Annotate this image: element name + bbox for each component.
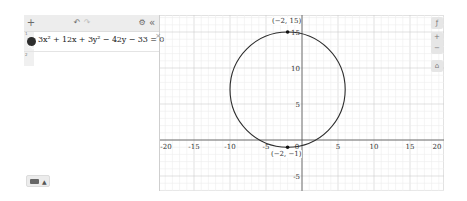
svg-text:10: 10 bbox=[291, 65, 300, 73]
point-label-bottom: (−2, −1) bbox=[271, 150, 302, 158]
svg-text:15: 15 bbox=[291, 29, 300, 37]
default-view-button[interactable]: ⌂ bbox=[431, 60, 443, 72]
svg-text:15: 15 bbox=[406, 143, 415, 151]
svg-text:-15: -15 bbox=[188, 143, 199, 151]
add-expression-button[interactable]: + bbox=[26, 15, 36, 31]
collapse-panel-button[interactable]: « bbox=[147, 15, 157, 31]
zoom-controls: + − bbox=[431, 32, 443, 54]
svg-text:-10: -10 bbox=[224, 143, 235, 151]
expression-toolbar: + ↶ ↷ ⚙ « bbox=[24, 15, 159, 32]
keyboard-icon bbox=[30, 179, 39, 184]
graph-canvas[interactable]: -20-15-10-50510152015105-5 (−2, 15) (−2,… bbox=[160, 15, 444, 191]
svg-text:10: 10 bbox=[370, 143, 379, 151]
undo-button[interactable]: ↶ bbox=[72, 15, 82, 31]
home-icon: ⌂ bbox=[435, 62, 439, 70]
zoom-out-button[interactable]: − bbox=[431, 43, 443, 54]
svg-text:-5: -5 bbox=[293, 173, 300, 181]
wave-color-icon[interactable] bbox=[27, 37, 36, 46]
wrench-icon: ƒ bbox=[436, 19, 438, 27]
graph-settings-button[interactable]: ƒ bbox=[431, 17, 443, 29]
svg-text:-5: -5 bbox=[263, 143, 270, 151]
svg-text:-20: -20 bbox=[160, 143, 171, 151]
expression-index: 2 bbox=[25, 52, 28, 57]
keyboard-toggle-button[interactable]: ▲ bbox=[26, 175, 50, 187]
expression-index: 1 bbox=[25, 31, 28, 36]
svg-text:5: 5 bbox=[336, 143, 340, 151]
settings-button[interactable]: ⚙ bbox=[137, 15, 147, 31]
redo-button[interactable]: ↷ bbox=[82, 15, 92, 31]
svg-text:5: 5 bbox=[296, 101, 300, 109]
point-label-top: (−2, 15) bbox=[272, 17, 301, 25]
point-bottom bbox=[286, 145, 290, 149]
svg-text:20: 20 bbox=[433, 143, 442, 151]
expression-math[interactable]: 3x² + 12x + 3y² − 42y − 33 = 0 bbox=[38, 35, 164, 44]
new-expression-row[interactable]: 2 bbox=[24, 52, 34, 66]
point-top bbox=[286, 30, 290, 34]
expression-row[interactable]: 1 3x² + 12x + 3y² − 42y − 33 = 0 × bbox=[24, 32, 159, 52]
expression-panel: + ↶ ↷ ⚙ « 1 3x² + 12x + 3y² − 42y − 33 =… bbox=[24, 15, 160, 191]
zoom-in-button[interactable]: + bbox=[431, 32, 443, 43]
caret-up-icon: ▲ bbox=[42, 176, 47, 188]
graph-svg: -20-15-10-50510152015105-5 bbox=[160, 15, 444, 191]
